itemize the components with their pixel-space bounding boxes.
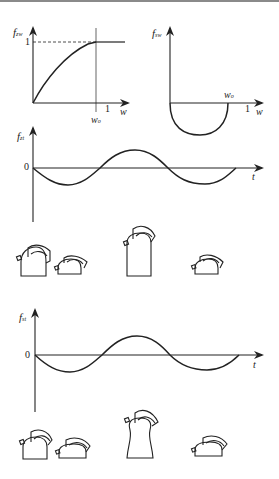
panel-a-fzw-plot — [33, 28, 128, 112]
creature-e-icon — [124, 410, 158, 458]
panel-d-wave — [35, 336, 239, 372]
creature-d1-icon — [19, 430, 52, 459]
panel-a-curve — [33, 42, 96, 103]
panel-c-xlabel: t — [252, 172, 255, 182]
creature-d2-icon — [55, 438, 90, 458]
panel-c-fzt-plot — [33, 128, 262, 222]
panel-d-origin: 0 — [25, 350, 30, 360]
panel-c-origin: 0 — [24, 162, 29, 172]
panel-a-wo-label: wo — [91, 115, 101, 125]
panel-b-curve — [170, 103, 228, 135]
panel-b-xlabel: w — [256, 107, 263, 117]
creature-c-icon — [191, 255, 223, 274]
panel-a-xlabel: w — [120, 107, 127, 117]
panel-b-wo-label: wo — [224, 90, 234, 100]
panel-b-x-tick-1: 1 — [245, 104, 250, 114]
panel-a-x-tick-1: 1 — [105, 104, 110, 114]
panel-a-y-tick-1: 1 — [25, 37, 30, 47]
panel-b-fsw-plot — [170, 28, 262, 135]
creature-a2-icon — [54, 256, 87, 274]
panel-a-ylabel: fzw — [13, 27, 22, 38]
panel-c-ylabel: fzt — [17, 131, 24, 142]
panel-d-fst-plot — [35, 310, 262, 412]
figure-canvas — [0, 0, 279, 479]
row2-creatures — [19, 410, 227, 459]
row1-creatures — [16, 226, 223, 276]
panel-b-ylabel: fsw — [152, 28, 161, 39]
panel-d-xlabel: t — [253, 360, 256, 370]
creature-a1-icon — [16, 245, 50, 276]
creature-f-icon — [191, 436, 227, 456]
creature-b-icon — [123, 226, 155, 276]
panel-d-ylabel: fst — [19, 312, 26, 323]
